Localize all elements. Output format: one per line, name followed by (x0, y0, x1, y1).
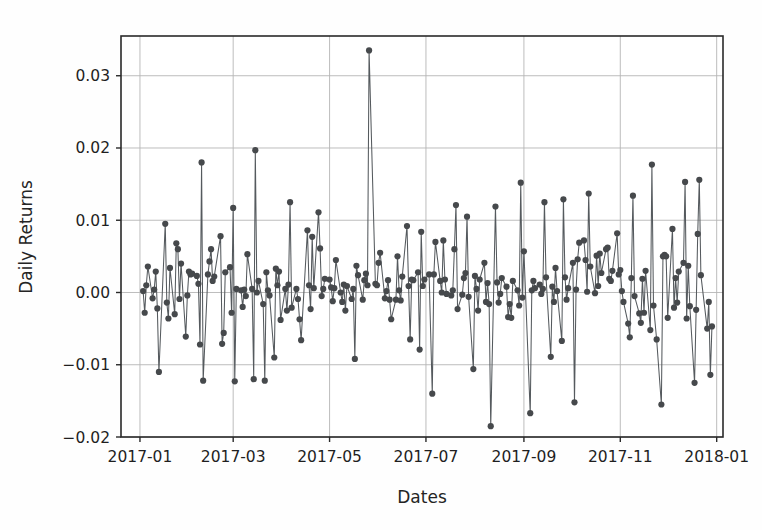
data-point (608, 278, 614, 284)
data-point (516, 302, 522, 308)
data-point (320, 286, 326, 292)
data-point (198, 159, 204, 165)
data-point (682, 179, 688, 185)
data-point (217, 233, 223, 239)
data-point (197, 341, 203, 347)
y-tick-label: 0.00 (75, 284, 110, 302)
data-point (295, 296, 301, 302)
data-point (650, 302, 656, 308)
data-point (255, 278, 261, 284)
data-point (665, 315, 671, 321)
data-point (308, 306, 314, 312)
data-point (241, 287, 247, 293)
data-point (503, 284, 509, 290)
y-tick-label: −0.01 (63, 356, 111, 374)
data-point (552, 265, 558, 271)
data-point (285, 281, 291, 287)
data-point (497, 291, 503, 297)
data-point (184, 292, 190, 298)
data-point (405, 283, 411, 289)
data-point (383, 288, 389, 294)
data-point (289, 305, 295, 311)
data-point (175, 246, 181, 252)
data-point (178, 260, 184, 266)
data-point (150, 295, 156, 301)
data-point (309, 234, 315, 240)
data-point (530, 278, 536, 284)
data-point (317, 245, 323, 251)
data-point (421, 276, 427, 282)
data-point (706, 299, 712, 305)
data-point (394, 253, 400, 259)
data-point (571, 399, 577, 405)
daily-returns-plot: −0.02−0.010.000.010.020.03 2017-012017-0… (0, 0, 762, 530)
data-point (565, 285, 571, 291)
data-point (304, 227, 310, 233)
y-tick-label: −0.02 (63, 429, 111, 447)
x-tick-label: 2017-11 (588, 448, 653, 466)
data-point (620, 299, 626, 305)
data-point (584, 289, 590, 295)
data-point (510, 278, 516, 284)
data-point (540, 286, 546, 292)
data-point (605, 245, 611, 251)
data-point (628, 275, 634, 281)
data-point (519, 294, 525, 300)
data-point (240, 304, 246, 310)
data-point (145, 263, 151, 269)
y-axis-label: Daily Returns (16, 180, 36, 294)
chart-figure: −0.02−0.010.000.010.020.03 2017-012017-0… (0, 0, 762, 530)
data-point (387, 297, 393, 303)
data-point (559, 338, 565, 344)
data-point (349, 296, 355, 302)
data-point (507, 301, 513, 307)
y-tick-label: 0.03 (75, 67, 110, 85)
data-point (573, 287, 579, 293)
data-point (691, 380, 697, 386)
data-point (244, 251, 250, 257)
data-point (609, 268, 615, 274)
x-tick-label: 2017-03 (201, 448, 266, 466)
data-point (649, 162, 655, 168)
data-point (631, 293, 637, 299)
data-point (229, 310, 235, 316)
data-point (364, 282, 370, 288)
data-point (548, 354, 554, 360)
data-point (496, 300, 502, 306)
data-point (153, 268, 159, 274)
data-point (484, 280, 490, 286)
data-point (377, 250, 383, 256)
data-point (642, 268, 648, 274)
data-point (462, 270, 468, 276)
data-point (464, 214, 470, 220)
data-point (638, 320, 644, 326)
data-point (331, 285, 337, 291)
data-point (167, 265, 173, 271)
data-point (695, 231, 701, 237)
data-point (459, 292, 465, 298)
plot-background (121, 36, 723, 437)
data-point (595, 283, 601, 289)
data-point (477, 276, 483, 282)
data-point (630, 193, 636, 199)
data-point (541, 199, 547, 205)
data-point (641, 310, 647, 316)
data-point (271, 354, 277, 360)
data-point (407, 336, 413, 342)
data-point (418, 229, 424, 235)
data-point (454, 306, 460, 312)
data-point (296, 316, 302, 322)
x-tick-labels: 2017-012017-032017-052017-072017-092017-… (108, 448, 749, 466)
data-point (399, 274, 405, 280)
data-point (442, 276, 448, 282)
data-point (693, 307, 699, 313)
y-tick-label: 0.02 (75, 139, 110, 157)
data-point (366, 47, 372, 53)
data-point (333, 257, 339, 263)
data-point (492, 203, 498, 209)
data-point (208, 246, 214, 252)
data-point (647, 327, 653, 333)
data-point (205, 271, 211, 277)
data-point (243, 293, 249, 299)
data-point (350, 286, 356, 292)
